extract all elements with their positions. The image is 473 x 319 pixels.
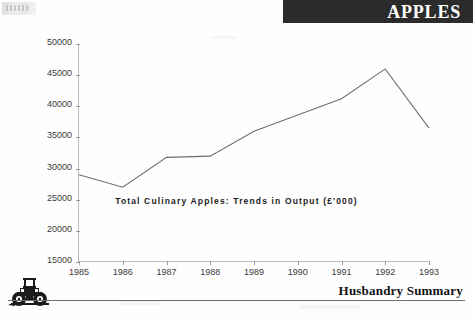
- y-tick-label: 15000: [47, 255, 72, 265]
- plot-area: 5000045000400003500030000250002000015000…: [79, 44, 428, 261]
- footer-divider: [8, 300, 465, 301]
- footer: Husbandry Summary: [0, 277, 473, 319]
- page-canvas: APPLES 500004500040000350003000025000200…: [0, 0, 473, 319]
- x-tick-label: 1985: [69, 267, 89, 277]
- y-tick-label: 35000: [47, 130, 72, 140]
- tractor-icon: [6, 277, 52, 309]
- x-tick-label: 1992: [375, 267, 395, 277]
- y-tick-label: 40000: [47, 99, 72, 109]
- scan-artifact: [2, 2, 36, 15]
- x-tick-mark: [298, 261, 299, 265]
- page-title: APPLES: [387, 1, 461, 23]
- x-tick-label: 1993: [419, 267, 439, 277]
- y-tick-label: 20000: [47, 224, 72, 234]
- plot-frame: 5000045000400003500030000250002000015000…: [78, 44, 428, 262]
- y-tick-label: 45000: [47, 68, 72, 78]
- x-tick-mark: [79, 261, 80, 265]
- x-tick-mark: [342, 261, 343, 265]
- x-tick-label: 1989: [244, 267, 264, 277]
- x-tick-label: 1987: [156, 267, 176, 277]
- y-tick-mark: [76, 231, 80, 232]
- y-tick-mark: [76, 106, 80, 107]
- chart-container: 5000045000400003500030000250002000015000…: [0, 28, 473, 278]
- y-tick-mark: [76, 137, 80, 138]
- x-tick-mark: [167, 261, 168, 265]
- y-tick-mark: [76, 169, 80, 170]
- y-tick-mark: [76, 75, 80, 76]
- y-tick-mark: [76, 44, 80, 45]
- x-tick-label: 1986: [113, 267, 133, 277]
- x-tick-label: 1990: [288, 267, 308, 277]
- x-tick-mark: [254, 261, 255, 265]
- y-tick-label: 30000: [47, 162, 72, 172]
- x-tick-mark: [210, 261, 211, 265]
- y-tick-label: 25000: [47, 193, 72, 203]
- y-tick-label: 50000: [47, 37, 72, 47]
- x-tick-mark: [429, 261, 430, 265]
- x-tick-mark: [123, 261, 124, 265]
- x-tick-label: 1991: [331, 267, 351, 277]
- footer-title: Husbandry Summary: [339, 283, 463, 299]
- y-tick-mark: [76, 200, 80, 201]
- x-tick-label: 1988: [200, 267, 220, 277]
- chart-annotation: Total Culinary Apples: Trends in Output …: [115, 196, 358, 206]
- header-banner: APPLES: [283, 0, 473, 23]
- x-tick-mark: [385, 261, 386, 265]
- data-line-series: [79, 44, 429, 262]
